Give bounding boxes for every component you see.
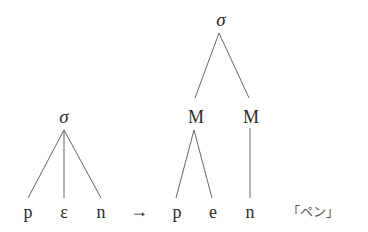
right-tree: σ M M p e n	[173, 9, 260, 222]
edge-sigma-n	[64, 130, 101, 198]
segment-p: p	[173, 202, 182, 222]
mora-node-2: M	[243, 107, 259, 127]
edge-mora1-p	[176, 130, 194, 198]
segment-p: p	[24, 202, 33, 222]
edge-sigma-mora1	[195, 33, 219, 98]
syllable-tree-diagram: σ p ɛ n → σ M M p e n 「ペン」	[0, 0, 368, 232]
mora-node-1: M	[188, 107, 204, 127]
segment-n: n	[246, 202, 255, 222]
japanese-gloss: 「ペン」	[287, 204, 339, 219]
arrow-icon: →	[130, 201, 148, 221]
right-sigma-node: σ	[216, 9, 226, 30]
segment-epsilon: ɛ	[60, 202, 68, 222]
left-tree: σ p ɛ n	[24, 106, 106, 222]
edge-mora1-e	[194, 130, 212, 198]
edge-sigma-p	[28, 130, 64, 198]
left-sigma-node: σ	[59, 106, 69, 127]
edge-sigma-mora2	[219, 33, 249, 98]
segment-n: n	[97, 202, 106, 222]
segment-e: e	[209, 202, 217, 222]
